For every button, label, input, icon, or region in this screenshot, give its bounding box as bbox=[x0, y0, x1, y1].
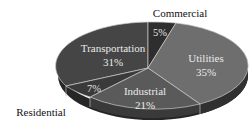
label-transportation-name: Transportation bbox=[81, 42, 146, 54]
label-industrial-name: Industrial bbox=[124, 85, 166, 97]
label-transportation-value: 31% bbox=[103, 56, 123, 68]
pie-chart: Commercial 5% Transportation 31% Utiliti… bbox=[0, 0, 250, 134]
label-commercial-name: Commercial bbox=[153, 7, 207, 19]
label-utilities-value: 35% bbox=[196, 66, 216, 78]
label-residential-name: Residential bbox=[16, 106, 66, 118]
label-residential-value: 7% bbox=[87, 83, 101, 94]
label-utilities-name: Utilities bbox=[188, 52, 223, 64]
label-commercial-value: 5% bbox=[153, 27, 167, 38]
label-industrial-value: 21% bbox=[135, 99, 155, 111]
